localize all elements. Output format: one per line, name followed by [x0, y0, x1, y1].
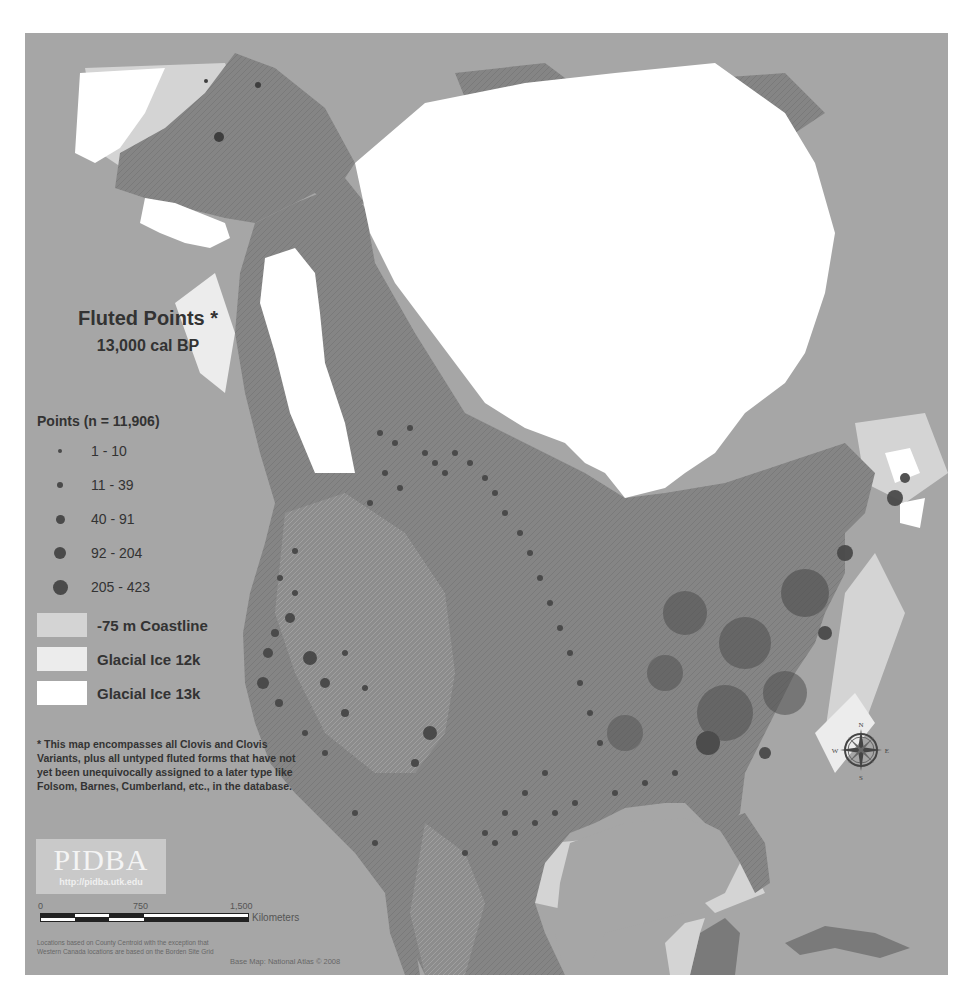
scale-tick-750: 750	[133, 901, 148, 911]
svg-text:S: S	[859, 774, 863, 781]
legend-point-class: 1 - 10	[45, 439, 127, 463]
legend-point-class: 205 - 423	[45, 575, 150, 599]
base-map	[25, 33, 948, 975]
footnote: * This map encompasses all Clovis and Cl…	[37, 737, 307, 793]
legend-point-class: 92 - 204	[45, 541, 142, 565]
compass-rose-icon: N S E W	[830, 719, 892, 781]
svg-text:W: W	[832, 747, 839, 755]
map-title: Fluted Points *	[43, 307, 253, 330]
legend-area-coastline: -75 m Coastline	[37, 612, 208, 638]
map-subtitle: 13,000 cal BP	[43, 337, 253, 355]
source-note: Locations based on County Centroid with …	[37, 939, 217, 956]
point-symbol-icon	[58, 449, 62, 453]
pidba-url[interactable]: http://pidba.utk.edu	[36, 877, 166, 887]
legend-area-label: -75 m Coastline	[97, 617, 208, 634]
point-symbol-icon	[53, 580, 68, 595]
ice-13k-swatch-icon	[37, 681, 87, 705]
legend-point-class: 11 - 39	[45, 473, 134, 497]
point-symbol-icon	[54, 547, 66, 559]
legend-point-label: 40 - 91	[91, 511, 135, 527]
legend-point-label: 92 - 204	[91, 545, 142, 561]
scale-tick-1500: 1,500	[230, 901, 253, 911]
scale-bar	[40, 913, 249, 922]
pidba-logo: PIDBA	[36, 843, 166, 877]
coastline-swatch-icon	[37, 613, 87, 637]
pidba-logo-box[interactable]: PIDBA http://pidba.utk.edu	[36, 839, 166, 894]
legend-area-ice-12k: Glacial Ice 12k	[37, 646, 200, 672]
point-symbol-icon	[56, 515, 65, 524]
map-frame: Fluted Points * 13,000 cal BP Points (n …	[25, 33, 948, 975]
legend-point-label: 205 - 423	[91, 579, 150, 595]
ice-12k-swatch-icon	[37, 647, 87, 671]
point-symbol-icon	[57, 482, 63, 488]
legend-area-label: Glacial Ice 12k	[97, 651, 200, 668]
legend-point-class: 40 - 91	[45, 507, 135, 531]
legend-area-ice-13k: Glacial Ice 13k	[37, 680, 200, 706]
legend-points-title: Points (n = 11,906)	[37, 413, 160, 429]
scale-tick-0: 0	[38, 901, 43, 911]
scale-unit: Kilometers	[252, 912, 299, 923]
legend-area-label: Glacial Ice 13k	[97, 685, 200, 702]
basemap-credit: Base Map: National Atlas © 2008	[230, 957, 340, 966]
legend-point-label: 1 - 10	[91, 443, 127, 459]
legend-point-label: 11 - 39	[91, 477, 134, 493]
svg-text:N: N	[858, 721, 863, 729]
svg-text:E: E	[885, 747, 889, 755]
